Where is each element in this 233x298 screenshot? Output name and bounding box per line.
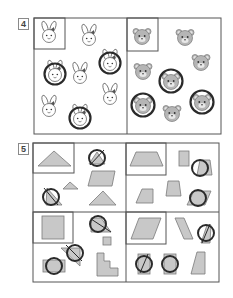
triangle-sample-icon xyxy=(38,151,71,166)
question-4-frame xyxy=(34,18,221,134)
staircase-icon xyxy=(97,253,118,276)
bear-icon xyxy=(163,106,181,122)
worksheet-canvas xyxy=(0,0,233,298)
rabbit-icon xyxy=(41,95,58,117)
square-sample-icon xyxy=(42,216,64,239)
trapezoid-sample-icon xyxy=(130,152,163,166)
small-square-icon xyxy=(103,237,111,245)
parallelogram-icon xyxy=(88,171,115,186)
parallelogram-sample-icon xyxy=(131,218,161,239)
bear-icon xyxy=(193,95,211,111)
bear-icon xyxy=(134,64,152,80)
triangle-icon xyxy=(89,191,116,205)
small-rectangle-icon xyxy=(179,151,189,166)
bear-sample-icon xyxy=(133,29,151,45)
slanted-parallelogram-icon xyxy=(175,218,193,239)
right-trapezoid-icon xyxy=(191,252,205,274)
rabbit-icon xyxy=(81,24,98,46)
bear-icon xyxy=(162,74,180,90)
bear-icon xyxy=(192,55,210,71)
rabbit-panel xyxy=(41,21,121,129)
bear-panel xyxy=(132,29,214,122)
bear-icon xyxy=(176,30,194,46)
trapezoid-icon xyxy=(166,181,181,196)
trapezoid-icon xyxy=(136,189,153,203)
rabbit-sample-icon xyxy=(41,21,58,43)
small-triangle-icon xyxy=(63,182,78,189)
bear-icon xyxy=(134,98,152,114)
rabbit-icon xyxy=(72,62,89,84)
rabbit-icon xyxy=(102,83,119,105)
